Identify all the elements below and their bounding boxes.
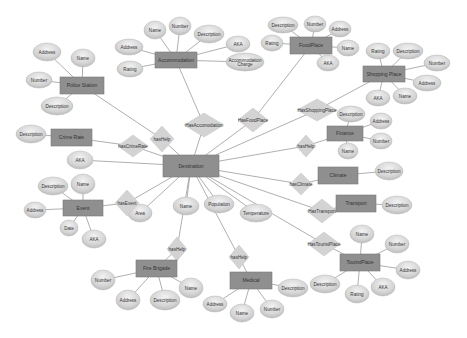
attribute-description: Description	[38, 177, 68, 195]
attribute-name: Name	[144, 21, 166, 39]
entity-label: Destination	[178, 163, 203, 169]
entity-label: Accommodation	[158, 57, 194, 63]
attribute-description: Description	[375, 162, 403, 180]
attribute-label: Number	[95, 278, 112, 283]
attribute-label: Rating	[371, 49, 385, 54]
attribute-label: Name	[399, 94, 412, 99]
attribute-label: Description	[314, 282, 337, 287]
entity-destination: Destination	[163, 155, 219, 177]
attribute-address: Address	[396, 261, 420, 279]
entity-medical: Medical	[230, 272, 272, 289]
attribute-label: Name	[356, 232, 369, 237]
entity-label: Finance	[336, 130, 354, 136]
attribute-label: Area	[135, 211, 145, 216]
entity-crimerate: Crime Rate	[51, 129, 92, 146]
attribute-label: Number	[264, 307, 281, 312]
entity-transport: Transport	[336, 195, 376, 212]
attribute-aka: AKA	[317, 55, 339, 71]
attribute-label: Address	[373, 119, 391, 124]
attribute-label: Address	[332, 27, 350, 32]
attribute-number: Number	[26, 72, 52, 88]
attribute-label: Address	[120, 298, 138, 303]
attribute-label: Name	[149, 28, 162, 33]
relationship-label: HasFoodPlace	[238, 118, 269, 123]
attribute-description: Description	[16, 125, 46, 143]
attribute-label: Description	[397, 49, 420, 54]
attribute-aka: AKA	[371, 278, 395, 296]
attribute-number: Number	[91, 270, 115, 290]
attribute-name: Name	[71, 49, 95, 67]
relationship-hashelp2: hasHelp	[296, 135, 316, 157]
attribute-number: Number	[424, 55, 450, 71]
attribute-accommodation-charge: AccommodationCharge	[226, 53, 264, 71]
attribute-population: Population	[204, 195, 234, 213]
attribute-address: Address	[329, 21, 351, 37]
attribute-label: Name	[236, 311, 249, 316]
attribute-address: Address	[33, 43, 61, 61]
attribute-label: Name	[77, 56, 90, 61]
relationship-label: HasTransport	[308, 209, 336, 214]
attribute-label: Number	[172, 24, 189, 29]
relationship-label: HasAccomodation	[185, 123, 223, 128]
relationship-hascrimerate: hasCrimeRate	[118, 135, 148, 157]
relationship-hasclimate: hasClimate	[290, 173, 313, 195]
attribute-description: Description	[194, 25, 224, 43]
attribute-aka: AKA	[67, 151, 93, 169]
entity-police: Police Station	[60, 77, 104, 94]
attribute-number: Number	[370, 133, 392, 149]
attribute-name: Name	[179, 278, 203, 298]
attribute-label: Rating	[123, 67, 137, 72]
attribute-number: Number	[260, 300, 284, 318]
relationship-label: hasEvent	[117, 201, 137, 206]
attribute-rating: Rating	[345, 285, 369, 303]
relationship-label: hasHelp	[169, 247, 186, 252]
entity-label: Event	[77, 205, 90, 211]
attribute-label: Description	[42, 184, 65, 189]
attribute-label: Description	[340, 112, 363, 117]
relationship-hasfoodplace: HasFoodPlace	[238, 108, 269, 132]
attribute-address: Address	[24, 202, 46, 218]
attribute-description: Description	[150, 290, 180, 310]
attribute-label: Name	[342, 149, 355, 154]
entity-label: Police Station	[67, 82, 98, 88]
attribute-label: Population	[208, 202, 230, 207]
attribute-label: Date	[64, 226, 74, 231]
er-diagram-canvas: AddressNameNumberDescriptionNameNumberDe…	[0, 0, 467, 338]
entity-label: Transport	[345, 200, 367, 206]
attribute-aka: AKA	[226, 36, 250, 52]
attribute-aka: AKA	[366, 90, 390, 106]
entity-label: Medical	[242, 277, 259, 283]
attribute-description: Description	[278, 279, 308, 297]
entity-firebrigade: Fire Brigade	[136, 260, 177, 277]
entity-label: Crime Rate	[59, 134, 85, 140]
attribute-label: Temperature	[243, 211, 269, 216]
relationship-label: hasHelp	[154, 137, 171, 142]
attribute-rating: Rating	[117, 61, 143, 77]
attribute-number: Number	[304, 16, 326, 32]
attribute-label: Description	[282, 286, 305, 291]
entity-label: Shopping Place	[366, 71, 401, 77]
attribute-label: Description	[154, 298, 177, 303]
attribute-label: Number	[31, 78, 48, 83]
relationship-label: hasCrimeRate	[118, 144, 148, 149]
attribute-date: Date	[60, 220, 78, 236]
entity-label: Climate	[330, 172, 347, 178]
attribute-rating: Rating	[261, 35, 283, 51]
attribute-label: Number	[429, 61, 446, 66]
relationship-hastransport: HasTransport	[307, 199, 337, 223]
attribute-description: Description	[310, 275, 340, 293]
attribute-label: AKA	[233, 42, 243, 47]
attribute-label: Description	[46, 104, 69, 109]
attribute-description: Description	[382, 196, 412, 214]
entity-touristplace: TouristPlace	[340, 254, 380, 271]
relationship-hashelp3: hasHelp	[167, 237, 187, 261]
attribute-label: AKA	[378, 285, 388, 290]
attribute-label: AKA	[89, 237, 99, 242]
attribute-name: Name	[230, 304, 254, 322]
attribute-label: Address	[207, 302, 225, 307]
attribute-label: Description	[386, 203, 409, 208]
relationship-label: hasHelp	[298, 144, 315, 149]
relationship-label: hasClimate	[290, 182, 313, 187]
attribute-label: Charge	[237, 62, 253, 67]
entity-accommodation: Accommodation	[155, 52, 197, 68]
